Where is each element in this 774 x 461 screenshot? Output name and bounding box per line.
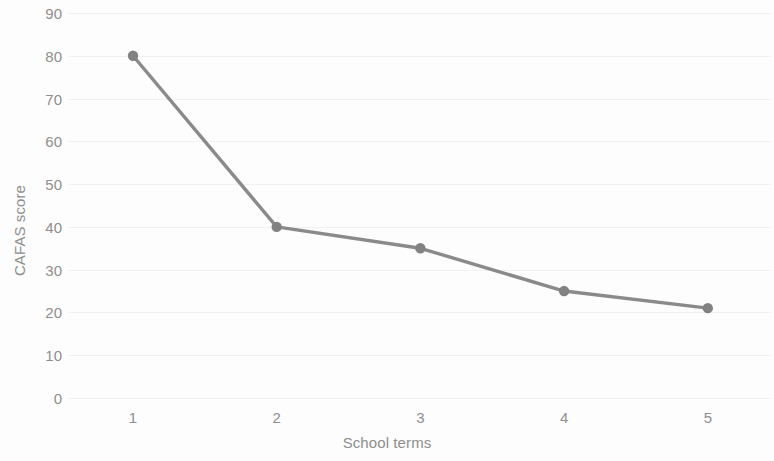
y-axis-title: CAFAS score [6, 0, 34, 461]
x-axis-tick-label: 1 [113, 409, 153, 426]
gridline [68, 270, 771, 271]
plot-area [0, 0, 774, 461]
x-axis-tick-label: 2 [257, 409, 297, 426]
gridline [68, 56, 771, 57]
data-point-marker [559, 286, 569, 296]
gridline [68, 398, 771, 399]
x-axis-title: School terms [0, 434, 774, 451]
x-axis-tick-label: 4 [544, 409, 584, 426]
gridline [68, 227, 771, 228]
gridline [68, 141, 771, 142]
gridline [68, 13, 771, 14]
gridline [68, 312, 771, 313]
gridline [68, 99, 771, 100]
data-point-markers [128, 51, 713, 314]
gridline [68, 355, 771, 356]
gridline [68, 184, 771, 185]
data-point-marker [415, 243, 425, 253]
x-axis-tick-label: 3 [400, 409, 440, 426]
line-chart: 0102030405060708090 12345 CAFAS score Sc… [0, 0, 774, 461]
x-axis-tick-label: 5 [688, 409, 728, 426]
